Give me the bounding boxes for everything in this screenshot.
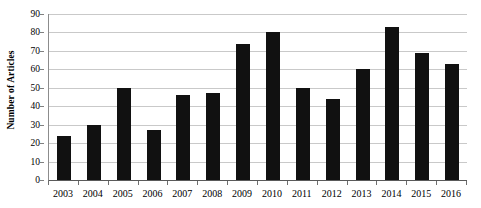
x-axis-tick-mark [287,181,288,185]
bar-cell [139,14,169,180]
y-axis-tick-mark [40,125,44,126]
bar-2008[interactable] [206,93,220,180]
x-axis-tick-label: 2016 [436,187,466,203]
x-axis-tick-mark [48,181,49,185]
x-axis-tick-label: 2006 [138,187,168,203]
x-axis-tick-label: 2008 [197,187,227,203]
bar-cell [258,14,288,180]
x-axis-tick-mark [138,181,139,185]
x-axis-tick-mark [108,181,109,185]
x-axis-tick-label: 2015 [406,187,436,203]
bar-cell [168,14,198,180]
y-axis-tick-mark [40,32,44,33]
x-axis-tick-label: 2003 [48,187,78,203]
bar-2009[interactable] [236,44,250,180]
bar-cell [109,14,139,180]
bar-cell [318,14,348,180]
bar-cell [198,14,228,180]
bar-cell [49,14,79,180]
bar-cell [228,14,258,180]
bar-2013[interactable] [356,69,370,180]
y-axis-tick-label: 30 [31,120,41,130]
x-axis-tick-mark [78,181,79,185]
y-axis-tick-mark [40,143,44,144]
plot-area [48,14,467,181]
x-axis-tick-label: 2013 [347,187,377,203]
bar-chart: Number of Articles 9080706050403020100 2… [0,0,481,208]
y-axis-tick-label: 60 [31,64,41,74]
y-axis-tick-mark [40,180,44,181]
bar-cell [377,14,407,180]
x-axis-tick-mark [436,181,437,185]
bar-2016[interactable] [445,64,459,180]
x-axis-ticks [48,181,466,185]
x-axis-tick-labels: 2003200420052006200720082009201020112012… [48,187,466,203]
bar-cell [288,14,318,180]
y-axis-tick-label: 90 [31,9,41,19]
y-axis-tick-mark [40,106,44,107]
x-axis-tick-mark [197,181,198,185]
y-axis-tick-mark [40,162,44,163]
y-axis-tick-label: 20 [31,138,41,148]
bar-2007[interactable] [176,95,190,180]
x-axis-tick-mark [376,181,377,185]
x-axis-tick-label: 2011 [287,187,317,203]
y-axis-tick-mark [40,88,44,89]
bar-2003[interactable] [57,136,71,180]
x-axis-tick-mark [466,181,467,185]
bar-2005[interactable] [117,88,131,180]
x-axis-tick-label: 2014 [376,187,406,203]
x-axis-tick-mark [227,181,228,185]
y-axis-title: Number of Articles [0,0,22,180]
x-axis-tick-mark [257,181,258,185]
y-axis-tick-label: 80 [31,27,41,37]
x-axis-tick-label: 2007 [167,187,197,203]
y-axis-tick-mark [40,14,44,15]
x-axis-tick-label: 2004 [78,187,108,203]
y-axis-title-label: Number of Articles [6,50,16,129]
bar-2010[interactable] [266,32,280,180]
bar-2011[interactable] [296,88,310,180]
y-axis-tick-label: 70 [31,46,41,56]
bar-cell [79,14,109,180]
bar-2004[interactable] [87,125,101,180]
y-axis-tick-label: 50 [31,83,41,93]
x-axis-tick-label: 2005 [108,187,138,203]
x-axis-tick-label: 2009 [227,187,257,203]
x-axis-tick-mark [167,181,168,185]
x-axis-tick-mark [317,181,318,185]
bar-cell [437,14,467,180]
x-axis-tick-label: 2010 [257,187,287,203]
y-axis-tick-mark [40,51,44,52]
bar-2012[interactable] [326,99,340,180]
bars-group [49,14,467,180]
y-axis-tick-mark [40,69,44,70]
x-axis-tick-label: 2012 [317,187,347,203]
x-axis-tick-mark [347,181,348,185]
bar-2006[interactable] [147,130,161,180]
bar-2014[interactable] [385,27,399,180]
bar-cell [407,14,437,180]
y-axis-tick-label: 40 [31,101,41,111]
y-axis-tick-labels: 9080706050403020100 [20,0,44,190]
x-axis-tick-mark [406,181,407,185]
bar-2015[interactable] [415,53,429,180]
bar-cell [348,14,378,180]
y-axis-tick-label: 10 [31,157,41,167]
